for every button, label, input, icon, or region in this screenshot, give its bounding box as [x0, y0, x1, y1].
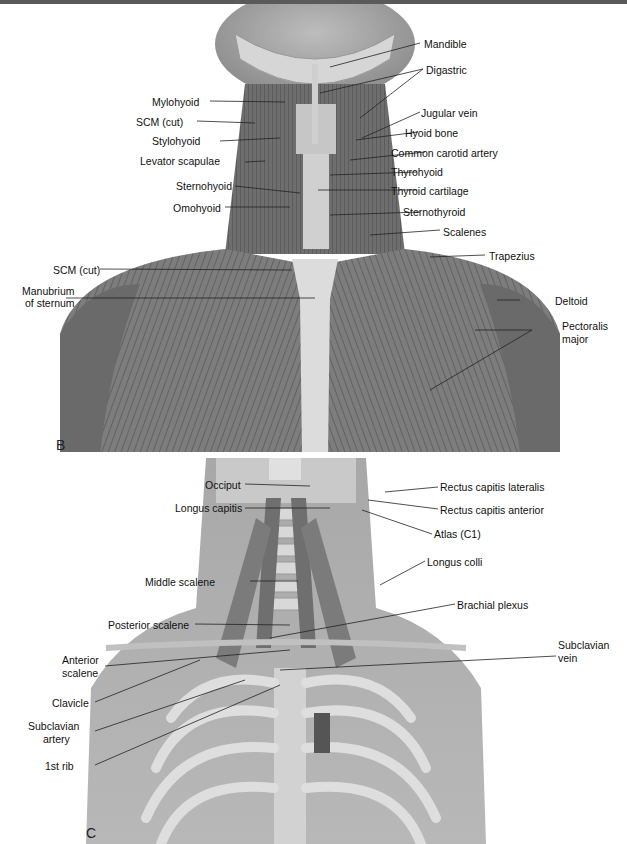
label-deltoid: Deltoid — [555, 295, 588, 307]
deep-neck-ribcage-illustration — [86, 458, 486, 844]
label-atlas-c1: Atlas (C1) — [434, 528, 481, 540]
label-common-carotid-artery: Common carotid artery — [391, 147, 498, 159]
label-manubrium: Manubrium — [22, 285, 75, 297]
label-middle-scalene: Middle scalene — [145, 576, 215, 588]
label-trapezius: Trapezius — [489, 250, 535, 262]
label-levator-scapulae: Levator scapulae — [140, 155, 220, 167]
label-subclavian-vein-1: Subclavian — [558, 639, 609, 651]
label-subclavian: Subclavian — [28, 720, 79, 732]
label-thyrohyoid: Thyrohyoid — [391, 166, 443, 178]
label-posterior-scalene: Posterior scalene — [108, 619, 189, 631]
label-scalenes: Scalenes — [443, 226, 486, 238]
label-mylohyoid: Mylohyoid — [152, 96, 199, 108]
label-hyoid-bone: Hyoid bone — [405, 127, 458, 139]
label-omohyoid: Omohyoid — [173, 202, 221, 214]
label-occiput: Occiput — [205, 479, 241, 491]
label-scm-cut-lower: SCM (cut) — [53, 264, 100, 276]
label-subclavian-vein-2: vein — [558, 652, 577, 664]
label-clavicle: Clavicle — [52, 697, 89, 709]
label-pectoralis: Pectoralis — [562, 320, 608, 332]
panel-c-illustration — [86, 458, 486, 844]
label-longus-colli: Longus colli — [427, 556, 482, 568]
label-subclavian-artery: artery — [43, 733, 70, 745]
panel-letter-b: B — [56, 437, 65, 453]
label-mandible: Mandible — [424, 38, 467, 50]
panel-letter-c: C — [86, 825, 96, 841]
label-anterior: Anterior — [62, 654, 99, 666]
label-brachial-plexus: Brachial plexus — [457, 599, 528, 611]
label-longus-capitis: Longus capitis — [175, 502, 242, 514]
label-manubrium-of-sternum: of sternum — [25, 297, 75, 309]
label-sternohyoid: Sternohyoid — [176, 180, 232, 192]
label-jugular-vein: Jugular vein — [421, 107, 478, 119]
label-pectoralis-major: major — [562, 333, 588, 345]
label-digastric: Digastric — [426, 64, 467, 76]
label-1st-rib: 1st rib — [45, 760, 74, 772]
label-anterior-scalene: scalene — [62, 667, 98, 679]
label-rectus-capitis-anterior: Rectus capitis anterior — [440, 504, 544, 516]
label-sternothyroid: Sternothyroid — [403, 206, 465, 218]
label-scm-cut-upper: SCM (cut) — [136, 116, 183, 128]
label-rectus-capitis-lateralis: Rectus capitis lateralis — [440, 481, 544, 493]
label-thyroid-cartilage: Thyroid cartilage — [391, 185, 469, 197]
label-stylohyoid: Stylohyoid — [152, 135, 200, 147]
